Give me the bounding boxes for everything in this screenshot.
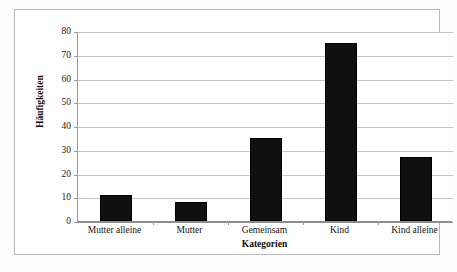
bar-gemeinsam bbox=[250, 138, 282, 221]
x-tick-mark-1 bbox=[153, 221, 154, 225]
x-tick-mark-4 bbox=[378, 221, 379, 225]
bar-kind-alleine bbox=[400, 157, 432, 221]
y-tick-label-10: 10 bbox=[62, 194, 72, 204]
y-tick-label-70: 70 bbox=[62, 51, 72, 61]
gridline-70 bbox=[78, 56, 453, 57]
x-axis-title: Kategorien bbox=[77, 240, 452, 250]
x-tick-mark-3 bbox=[303, 221, 304, 225]
y-axis-title: Häufigkeiten bbox=[36, 75, 46, 128]
x-tick-mark-2 bbox=[228, 221, 229, 225]
y-tick-label-20: 20 bbox=[62, 170, 72, 180]
gridline-40 bbox=[78, 127, 453, 128]
y-tick-mark-30 bbox=[74, 151, 78, 152]
gridline-60 bbox=[78, 80, 453, 81]
gridline-50 bbox=[78, 103, 453, 104]
y-tick-mark-50 bbox=[74, 103, 78, 104]
bar-chart-figure: 01020304050607080 Kategorien Häufigkeite… bbox=[0, 0, 457, 272]
bar-kind bbox=[325, 43, 357, 221]
y-tick-mark-40 bbox=[74, 127, 78, 128]
chart-outer-frame: 01020304050607080 Kategorien Häufigkeite… bbox=[14, 9, 440, 255]
y-tick-mark-10 bbox=[74, 198, 78, 199]
y-tick-label-50: 50 bbox=[62, 99, 72, 109]
gridline-80 bbox=[78, 32, 453, 33]
x-category-label-1: Mutter bbox=[152, 226, 227, 236]
y-tick-mark-70 bbox=[74, 56, 78, 57]
y-tick-label-0: 0 bbox=[66, 217, 71, 227]
y-tick-mark-80 bbox=[74, 32, 78, 33]
y-tick-label-40: 40 bbox=[62, 122, 72, 132]
y-tick-label-60: 60 bbox=[62, 75, 72, 85]
x-category-label-4: Kind alleine bbox=[377, 226, 452, 236]
bar-mutter-alleine bbox=[100, 195, 132, 221]
bar-mutter bbox=[175, 202, 207, 221]
y-tick-mark-60 bbox=[74, 80, 78, 81]
plot-area: 01020304050607080 bbox=[77, 32, 452, 222]
y-tick-mark-0 bbox=[74, 222, 78, 223]
x-category-label-0: Mutter alleine bbox=[77, 226, 152, 236]
x-category-label-3: Kind bbox=[302, 226, 377, 236]
y-tick-label-30: 30 bbox=[62, 146, 72, 156]
x-category-label-2: Gemeinsam bbox=[227, 226, 302, 236]
y-tick-label-80: 80 bbox=[62, 27, 72, 37]
y-tick-mark-20 bbox=[74, 175, 78, 176]
gridline-0 bbox=[78, 222, 453, 223]
